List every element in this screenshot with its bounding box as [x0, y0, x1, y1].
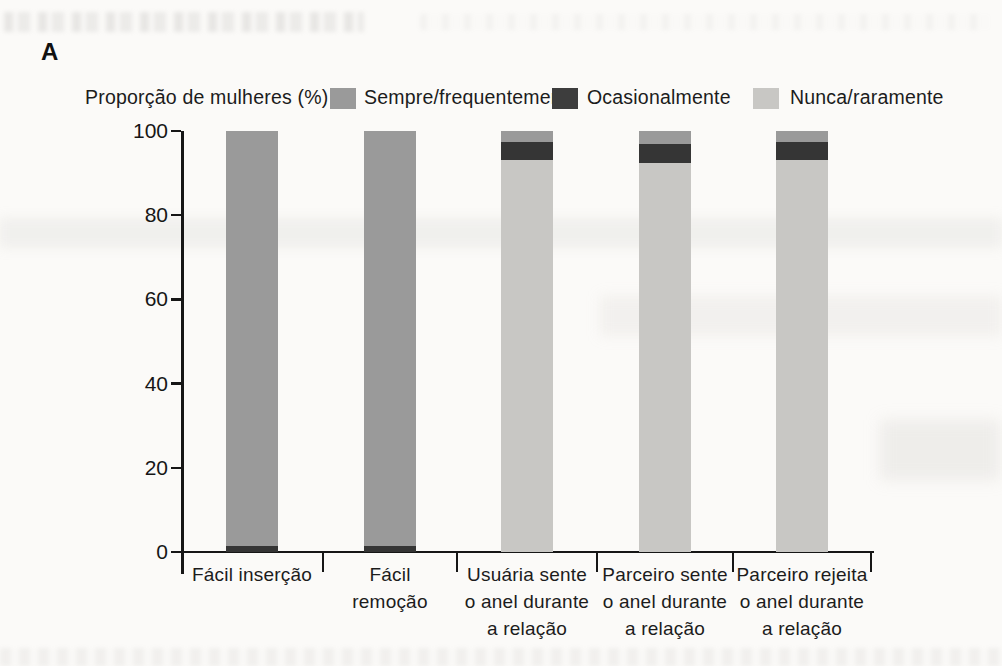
x-category-label-line: Fácil inserção	[174, 561, 330, 588]
y-axis-tick	[171, 130, 181, 133]
x-category-label-line: o anel durante	[724, 588, 880, 615]
x-category-label-line: a relação	[724, 615, 880, 642]
bar-segment-ocasionalmente	[639, 144, 691, 163]
legend-label: Sempre/frequentemente	[364, 86, 579, 109]
y-axis-tick-label: 60	[108, 287, 168, 311]
legend-swatch-nunca-raramente	[753, 88, 779, 109]
x-category-label-line: Parceiro sente	[587, 561, 743, 588]
scan-artifact-top-right	[420, 14, 990, 30]
x-category-label: Fácil inserção	[174, 561, 330, 588]
legend-label: Nunca/raramente	[790, 86, 944, 109]
bar-segment-ocasionalmente	[776, 142, 828, 161]
y-axis-tick-label: 20	[108, 456, 168, 480]
y-axis-tick	[171, 298, 181, 301]
bar-segment-ocasionalmente	[501, 142, 553, 161]
scan-artifact-smudge	[880, 420, 1000, 480]
bar-segment-ocasionalmente	[226, 546, 278, 552]
x-category-label-line: o anel durante	[587, 588, 743, 615]
bar-segment-sempre-frequentemente	[364, 131, 416, 546]
bar-segment-nunca-raramente	[776, 160, 828, 552]
bar-segment-nunca-raramente	[501, 160, 553, 552]
bar-segment-nunca-raramente	[639, 163, 691, 552]
scanned-page: A Proporção de mulheres (%) Sempre/frequ…	[0, 0, 1002, 666]
y-axis-tick	[171, 551, 181, 554]
x-category-label: Usuária senteo anel durantea relação	[449, 561, 605, 642]
legend-swatch-ocasionalmente	[552, 88, 578, 109]
bar-segment-sempre-frequentemente	[226, 131, 278, 546]
y-axis-tick-label: 40	[108, 372, 168, 396]
x-category-label-line: Fácil	[312, 561, 468, 588]
y-axis-tick-label: 80	[108, 203, 168, 227]
x-category-label: Parceiro senteo anel durantea relação	[587, 561, 743, 642]
y-axis-tick-label: 0	[108, 540, 168, 564]
legend-label: Ocasionalmente	[587, 86, 731, 109]
x-category-label-line: a relação	[449, 615, 605, 642]
bar-segment-ocasionalmente	[364, 546, 416, 552]
x-category-label-line: Parceiro rejeita	[724, 561, 880, 588]
y-axis-title: Proporção de mulheres (%)	[85, 86, 328, 109]
scan-artifact-top-left	[4, 12, 364, 32]
y-axis-tick	[171, 214, 181, 217]
y-axis-tick	[171, 382, 181, 385]
bar-segment-sempre-frequentemente	[501, 131, 553, 142]
x-category-label-line: remoção	[312, 588, 468, 615]
bar-segment-sempre-frequentemente	[639, 131, 691, 144]
scan-artifact-bottom	[0, 648, 1002, 666]
y-axis-tick-label: 100	[108, 119, 168, 143]
x-category-label: Fácilremoção	[312, 561, 468, 615]
y-axis-line	[181, 131, 184, 574]
legend-swatch-sempre-frequentemente	[330, 88, 356, 109]
x-category-label-line: Usuária sente	[449, 561, 605, 588]
y-axis-tick	[171, 467, 181, 470]
x-category-label-line: a relação	[587, 615, 743, 642]
x-category-label-line: o anel durante	[449, 588, 605, 615]
bar-segment-sempre-frequentemente	[776, 131, 828, 142]
x-category-label: Parceiro rejeitao anel durantea relação	[724, 561, 880, 642]
panel-label: A	[41, 38, 58, 66]
